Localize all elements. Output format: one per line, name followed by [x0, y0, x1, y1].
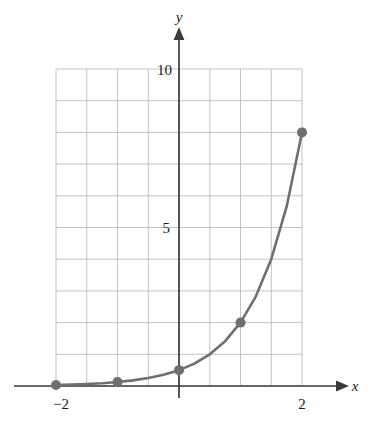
data-point	[174, 365, 184, 375]
data-point	[51, 380, 61, 390]
x-axis-label: x	[351, 378, 359, 394]
x-tick-label-pos2: 2	[298, 396, 306, 412]
chart-background	[0, 0, 370, 436]
x-tick-label-neg2: −2	[53, 396, 69, 412]
data-point	[297, 127, 307, 137]
data-point	[236, 318, 246, 328]
y-tick-label-10: 10	[157, 62, 172, 78]
data-point	[113, 377, 123, 387]
y-axis-label: y	[174, 9, 183, 25]
exponential-function-graph: x y −2 2 5 10	[0, 0, 370, 436]
y-tick-label-5: 5	[163, 220, 171, 236]
